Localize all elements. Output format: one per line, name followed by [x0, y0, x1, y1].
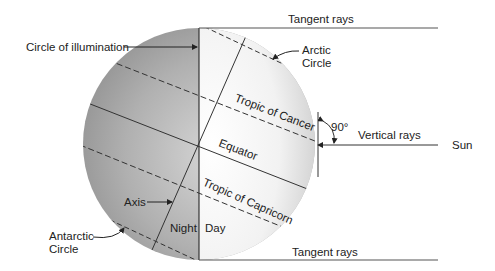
- tangent-rays-top-label: Tangent rays: [288, 13, 354, 25]
- sun-label: Sun: [452, 139, 472, 151]
- night-label: Night: [170, 222, 198, 234]
- axis-label: Axis: [124, 196, 146, 208]
- arctic-circle-label-line1: Arctic: [302, 44, 331, 56]
- angle-label: 90°: [331, 121, 348, 133]
- day-label: Day: [205, 222, 226, 234]
- antarctic-circle-pointer: [93, 228, 124, 238]
- antarctic-circle-label-line1: Antarctic: [49, 230, 94, 242]
- arctic-circle-label-line2: Circle: [302, 57, 331, 69]
- tangent-rays-bottom-label: Tangent rays: [292, 246, 358, 258]
- earth-illumination-diagram: Tangent rays Tangent rays 90° Vertical r…: [0, 0, 495, 271]
- antarctic-circle-label-line2: Circle: [49, 243, 78, 255]
- arctic-circle-pointer: [273, 51, 299, 59]
- circle-of-illumination-label: Circle of illumination: [26, 41, 129, 53]
- vertical-rays-label: Vertical rays: [358, 129, 421, 141]
